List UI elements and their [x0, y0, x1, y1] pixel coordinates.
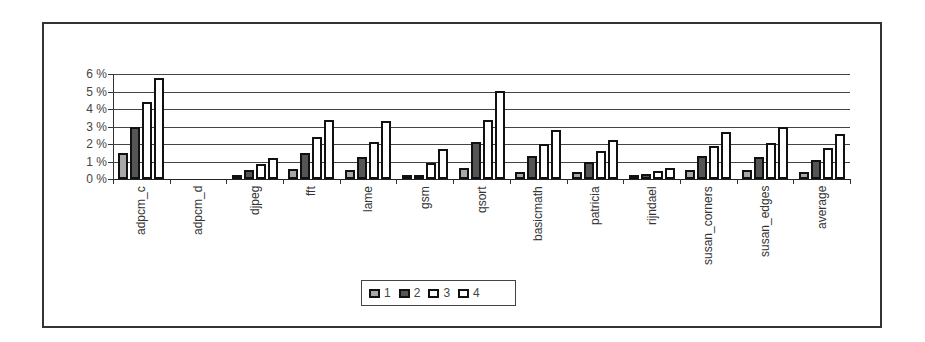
x-tick [283, 179, 284, 184]
bar-average-series-3 [823, 148, 833, 180]
bar-patricia-series-4 [608, 140, 618, 179]
legend-swatch [399, 289, 410, 298]
bar-patricia-series-3 [596, 151, 606, 179]
x-tick [396, 179, 397, 184]
x-tick-label: adpcm_d [191, 186, 205, 235]
x-tick [680, 179, 681, 184]
x-tick-label: adpcm_c [134, 186, 148, 235]
x-tick-label: rijndael [645, 186, 659, 225]
legend-label: 3 [443, 286, 450, 300]
x-tick-label: fft [304, 186, 318, 196]
x-tick-label: qsort [475, 186, 489, 213]
x-tick-label: average [815, 186, 829, 229]
bar-gsm-series-4 [438, 149, 448, 179]
bar-djpeg-series-3 [256, 164, 266, 179]
bar-djpeg-series-2 [244, 170, 254, 179]
bar-susan_edges-series-2 [754, 157, 764, 179]
bar-fft-series-2 [300, 153, 310, 179]
x-tick [567, 179, 568, 184]
gridline [113, 162, 850, 163]
x-tick-label: basicmath [531, 186, 545, 241]
bar-adpcm_c-series-1 [118, 153, 128, 179]
x-tick-label: djpeg [248, 186, 262, 215]
legend-item-2: 2 [399, 286, 421, 300]
bar-adpcm_c-series-2 [130, 127, 140, 180]
bar-patricia-series-1 [572, 172, 582, 179]
bar-qsort-series-3 [483, 120, 493, 180]
gridline [113, 92, 850, 93]
bar-qsort-series-4 [495, 91, 505, 179]
bar-qsort-series-2 [471, 142, 481, 179]
legend-label: 1 [384, 286, 391, 300]
bar-basicmath-series-3 [539, 144, 549, 179]
bar-lame-series-2 [357, 157, 367, 179]
gridline [113, 144, 850, 145]
bar-adpcm_c-series-4 [154, 78, 164, 180]
gridline [113, 74, 850, 75]
x-tick-label: susan_corners [701, 186, 715, 265]
plot-area [113, 74, 850, 179]
bar-gsm-series-3 [426, 163, 436, 179]
x-tick [170, 179, 171, 184]
bar-fft-series-4 [324, 120, 334, 180]
legend-label: 4 [473, 286, 480, 300]
x-tick [793, 179, 794, 184]
bar-fft-series-3 [312, 137, 322, 179]
bar-susan_corners-series-1 [685, 170, 695, 179]
y-tick-label: 6 % [57, 68, 107, 80]
x-tick [113, 179, 114, 184]
x-tick [226, 179, 227, 184]
bar-susan_edges-series-1 [742, 170, 752, 179]
bar-susan_edges-series-4 [778, 127, 788, 179]
bar-patricia-series-2 [584, 162, 594, 180]
bar-lame-series-3 [369, 142, 379, 179]
bar-lame-series-1 [345, 170, 355, 179]
bar-adpcm_c-series-3 [142, 102, 152, 179]
x-tick-label: susan_edges [758, 186, 772, 257]
y-tick-label: 2 % [57, 138, 107, 150]
bar-basicmath-series-1 [515, 172, 525, 179]
y-tick-label: 3 % [57, 121, 107, 133]
x-tick [623, 179, 624, 184]
gridline [113, 127, 850, 128]
x-tick-label: gsm [418, 186, 432, 209]
bar-susan_corners-series-4 [721, 132, 731, 179]
x-tick-label: patricia [588, 186, 602, 225]
bar-basicmath-series-4 [551, 130, 561, 179]
chart-legend: 1234 [361, 280, 516, 306]
legend-swatch [458, 289, 469, 298]
x-axis-line [113, 179, 850, 180]
legend-swatch [428, 289, 439, 298]
bar-rijndael-series-3 [653, 171, 663, 179]
bar-average-series-1 [799, 172, 809, 179]
legend-item-4: 4 [458, 286, 480, 300]
y-tick-label: 1 % [57, 156, 107, 168]
bar-susan_corners-series-2 [697, 156, 707, 179]
x-tick [453, 179, 454, 184]
bar-fft-series-1 [288, 169, 298, 180]
gridline [113, 109, 850, 110]
bar-susan_edges-series-3 [766, 143, 776, 179]
y-tick-label: 0 % [57, 173, 107, 185]
legend-item-3: 3 [428, 286, 450, 300]
legend-label: 2 [414, 286, 421, 300]
bar-average-series-4 [835, 134, 845, 180]
bar-lame-series-4 [381, 121, 391, 179]
x-tick [737, 179, 738, 184]
y-tick-label: 5 % [57, 86, 107, 98]
x-tick [340, 179, 341, 184]
legend-item-1: 1 [369, 286, 391, 300]
bar-susan_corners-series-3 [709, 146, 719, 179]
bar-average-series-2 [811, 160, 821, 179]
bar-rijndael-series-4 [665, 168, 675, 179]
y-tick-label: 4 % [57, 103, 107, 115]
x-tick [510, 179, 511, 184]
x-tick-label: lame [361, 186, 375, 212]
x-tick [850, 179, 851, 184]
legend-swatch [369, 289, 380, 298]
bar-djpeg-series-4 [268, 158, 278, 179]
bar-basicmath-series-2 [527, 156, 537, 179]
bar-qsort-series-1 [459, 168, 469, 179]
